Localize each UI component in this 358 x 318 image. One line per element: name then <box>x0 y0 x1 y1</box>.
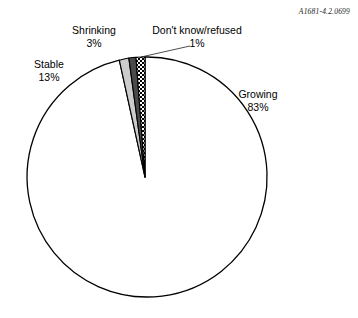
slice-label-dont-know-name: Don't know/refused <box>152 24 242 36</box>
slice-label-dont-know: Don't know/refused 1% <box>141 24 253 49</box>
slice-label-shrinking-name: Shrinking <box>72 24 116 36</box>
slice-label-stable-value: 13% <box>24 71 74 84</box>
pie-chart-figure: A1681-4.2.0699 Stable 13% Shrinking 3% D… <box>0 0 358 318</box>
slice-label-shrinking-value: 3% <box>62 37 126 50</box>
slice-label-shrinking: Shrinking 3% <box>62 24 126 49</box>
slice-label-growing-name: Growing <box>238 88 277 100</box>
slice-label-stable-name: Stable <box>34 58 64 70</box>
slice-label-stable: Stable 13% <box>24 58 74 83</box>
slice-label-growing-value: 83% <box>230 101 286 114</box>
slice-label-dont-know-value: 1% <box>141 37 253 50</box>
slice-label-growing: Growing 83% <box>230 88 286 113</box>
